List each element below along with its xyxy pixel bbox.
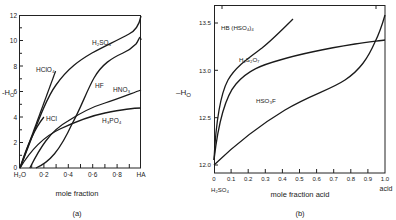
x-end-label-acid: acid xyxy=(380,185,393,192)
panel-a: 0 2 4 6 8 10 12 H₂O 0·2 0·4 0·6 0·8 HA -… xyxy=(2,12,146,218)
y-tick-4: 4 xyxy=(13,114,17,121)
y-tick-12.5: 12.5 xyxy=(199,114,212,121)
x-tick-0: 0 xyxy=(212,176,216,182)
x-tick-labels-a: H₂O 0·2 0·4 0·6 0·8 HA xyxy=(14,171,146,178)
x-tick-0.3: 0.3 xyxy=(261,176,270,182)
x-tick-0.2: 0.2 xyxy=(244,176,253,182)
label-hf: HF xyxy=(95,82,104,89)
y-tick-12: 12 xyxy=(10,12,18,19)
y-tick-13.0: 13.0 xyxy=(199,67,212,74)
x-tick-0.9: 0.9 xyxy=(364,176,373,182)
x-tick-0.6: 0.6 xyxy=(312,176,321,182)
y-tick-13.5: 13.5 xyxy=(199,19,212,26)
x-ticks-a xyxy=(32,164,130,168)
x-tick-0.4: 0.4 xyxy=(278,176,287,182)
x-tick-1.0: 1.0 xyxy=(381,176,390,182)
x-tick-0.8: 0.8 xyxy=(347,176,356,182)
label-hso3f: HSO₃F xyxy=(256,97,276,104)
panel-b: 12.0 12.5 13.0 13.5 0 0.1 0.2 0.3 0.4 0.… xyxy=(176,6,393,219)
label-h2s2o7: H₂S₂O₇ xyxy=(239,56,259,63)
x-tick-h2o: H₂O xyxy=(14,171,26,178)
y-tick-10: 10 xyxy=(10,37,18,44)
x-axis-title-a: mole fraction xyxy=(56,189,99,198)
label-h2so4: H₂SO₄ xyxy=(92,39,112,46)
y-tick-labels-b: 12.0 12.5 13.0 13.5 xyxy=(199,19,212,168)
x-tick-0.2: 0·2 xyxy=(39,171,49,178)
y-tick-0: 0 xyxy=(13,164,17,171)
label-hno3: HNO₃ xyxy=(113,86,130,93)
x-tick-ha: HA xyxy=(136,171,146,178)
x-tick-0.8: 0·8 xyxy=(112,171,122,178)
label-hclo4: HClO₄ xyxy=(36,66,55,73)
x-tick-0.6: 0·6 xyxy=(88,171,98,178)
label-hb-hso4-4: HB (HSO₄)₄ xyxy=(221,24,254,31)
figure: 0 2 4 6 8 10 12 H₂O 0·2 0·4 0·6 0·8 HA -… xyxy=(0,0,396,220)
caption-b: (b) xyxy=(295,209,305,218)
y-tick-8: 8 xyxy=(13,63,17,70)
curve-hb-hso4-4 xyxy=(214,19,293,160)
x-end-label-h2so4: H₂SO₄ xyxy=(211,187,229,193)
curve-hso3f xyxy=(214,15,385,165)
caption-a: (a) xyxy=(72,209,82,218)
y-axis-title-b: –HO xyxy=(176,88,191,98)
curves-b xyxy=(214,15,385,165)
x-axis-title-b: mole fraction acid xyxy=(271,190,330,199)
y-ticks-a xyxy=(20,28,24,156)
curve-hf xyxy=(36,37,141,168)
y-tick-2: 2 xyxy=(13,139,17,146)
label-h3po4: H₃PO₄ xyxy=(102,117,122,124)
x-tick-0.5: 0.5 xyxy=(295,176,304,182)
label-hcl: HCl xyxy=(46,115,57,122)
x-tick-labels-b: 0 0.1 0.2 0.3 0.4 0.5 0.6 0.7 0.8 0.9 1.… xyxy=(212,176,390,182)
x-tick-0.7: 0.7 xyxy=(330,176,339,182)
x-tick-0.1: 0.1 xyxy=(227,176,236,182)
y-tick-12.0: 12.0 xyxy=(199,161,212,168)
x-tick-0.4: 0·4 xyxy=(64,171,74,178)
